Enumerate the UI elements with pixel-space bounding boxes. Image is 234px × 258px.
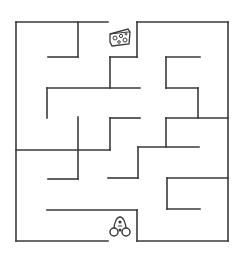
cheese-icon (108, 28, 132, 52)
mouse-icon (108, 214, 132, 242)
maze-puzzle (0, 0, 234, 258)
